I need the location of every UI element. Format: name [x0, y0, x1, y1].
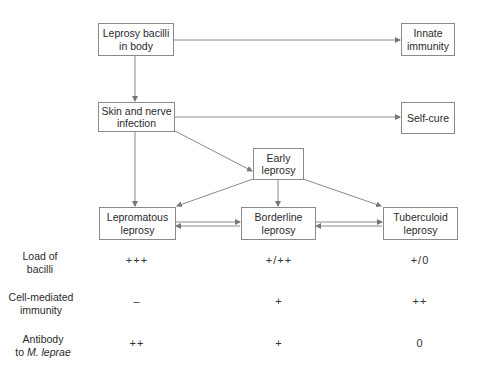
node-borderline-leprosy: Borderlineleprosy — [241, 207, 316, 240]
node-early-leprosy: Earlyleprosy — [253, 148, 304, 180]
row-label-antibody: Antibody to M. leprae — [10, 333, 76, 358]
node-label: Self-cure — [407, 112, 449, 125]
row-label-load-of-bacilli: Load of bacilli — [10, 250, 70, 275]
node-label: Lepromatous — [107, 211, 168, 224]
node-label: Tuberculoid — [393, 211, 447, 224]
node-label: Innate — [407, 27, 449, 40]
node-label: Skin and nerve — [101, 105, 171, 118]
value-cmi-tuberculoid: ++ — [390, 295, 450, 307]
value-antibody-tuberculoid: 0 — [390, 337, 450, 349]
value-load-borderline: +/++ — [249, 254, 309, 266]
node-label: in body — [103, 40, 170, 53]
value-cmi-borderline: + — [249, 295, 309, 307]
connector-lines — [0, 0, 477, 374]
row-label-line: Load of — [10, 250, 70, 263]
value-load-tuberculoid: +/0 — [390, 254, 450, 266]
node-label: leprosy — [262, 164, 296, 177]
organism-name: M. leprae — [27, 346, 71, 358]
value-load-lepromatous: +++ — [107, 254, 167, 266]
node-label: Borderline — [255, 211, 303, 224]
row-label-line: Antibody — [10, 333, 76, 346]
node-leprosy-bacilli: Leprosy bacilliin body — [98, 23, 174, 56]
value-antibody-borderline: + — [249, 337, 309, 349]
node-label: leprosy — [393, 224, 447, 237]
node-label: Early — [262, 152, 296, 165]
node-label: Leprosy bacilli — [103, 27, 170, 40]
node-skin-nerve-infection: Skin and nerveinfection — [98, 102, 175, 132]
node-label: leprosy — [107, 224, 168, 237]
node-lepromatous-leprosy: Lepromatousleprosy — [99, 207, 176, 240]
node-label: immunity — [407, 40, 449, 53]
arrow-early-tuberculoid — [303, 179, 381, 206]
row-label-line: Cell-mediated — [8, 291, 74, 304]
node-label: leprosy — [255, 224, 303, 237]
row-label-cell-mediated-immunity: Cell-mediated immunity — [8, 291, 74, 316]
node-innate-immunity: Innateimmunity — [401, 23, 455, 56]
node-tuberculoid-leprosy: Tuberculoidleprosy — [383, 207, 458, 240]
arrow-skin-early — [175, 131, 252, 171]
node-label: infection — [101, 117, 171, 130]
node-self-cure: Self-cure — [401, 102, 455, 134]
arrow-early-lepromatous — [177, 179, 253, 206]
value-antibody-lepromatous: ++ — [107, 337, 167, 349]
row-label-line: to — [15, 346, 27, 358]
row-label-line: immunity — [8, 304, 74, 317]
row-label-line: bacilli — [10, 263, 70, 276]
value-cmi-lepromatous: – — [107, 295, 167, 307]
